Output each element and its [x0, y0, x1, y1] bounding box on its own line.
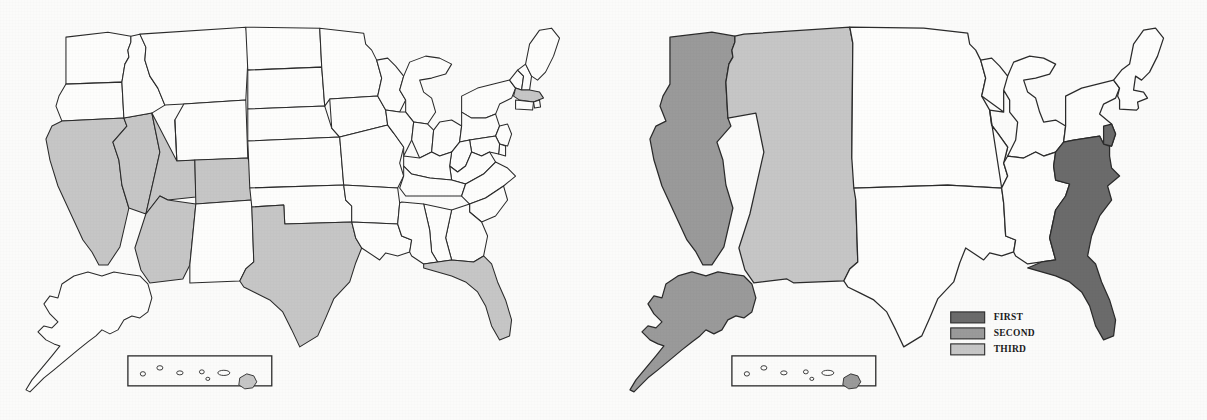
state-colorado[interactable]	[195, 158, 252, 204]
state-minnesota[interactable]	[320, 28, 382, 106]
legend-swatch-second	[950, 328, 984, 339]
state-florida[interactable]	[424, 256, 512, 340]
island-kauai	[744, 372, 749, 376]
state-maine[interactable]	[526, 28, 560, 80]
island-kahoolawe	[809, 377, 813, 380]
rank-legend: FIRST SECOND THIRD	[950, 312, 1034, 355]
region-pacific[interactable]	[649, 32, 734, 265]
state-new-york[interactable]	[462, 80, 516, 118]
hawaii-inset-right	[731, 356, 875, 389]
region-new-england[interactable]	[1113, 28, 1163, 110]
island-lanai	[199, 370, 204, 374]
island-hawaii	[239, 374, 257, 389]
state-north-dakota[interactable]	[246, 27, 322, 70]
legend-label-third: THIRD	[993, 344, 1026, 354]
island-molokai	[780, 371, 786, 375]
state-oregon[interactable]	[56, 82, 124, 121]
island-kahoolawe	[206, 377, 210, 380]
state-washington[interactable]	[66, 32, 131, 84]
region-mountain[interactable]	[725, 27, 857, 283]
region-alaska[interactable]	[629, 272, 755, 392]
right-map-panel: FIRST SECOND THIRD	[604, 0, 1207, 420]
state-arkansas[interactable]	[344, 185, 400, 224]
state-south-dakota[interactable]	[248, 67, 325, 109]
state-alaska[interactable]	[26, 272, 152, 392]
state-new-mexico[interactable]	[190, 200, 254, 283]
hawaii-inset-left	[128, 356, 272, 389]
state-kansas[interactable]	[248, 137, 344, 188]
legend-label-second: SECOND	[993, 328, 1034, 338]
island-molokai	[177, 371, 183, 375]
legend-entry-third[interactable]: THIRD	[950, 344, 1026, 355]
island-lanai	[803, 370, 808, 374]
left-map-panel	[0, 0, 604, 420]
region-level-map-svg: FIRST SECOND THIRD	[604, 0, 1207, 420]
legend-swatch-third	[950, 344, 984, 355]
island-maui	[821, 370, 833, 375]
state-rhode-island[interactable]	[534, 100, 541, 108]
island-oahu	[157, 366, 163, 370]
state-level-map-svg	[0, 0, 604, 420]
map-figure: FIRST SECOND THIRD	[0, 0, 1207, 420]
state-texas[interactable]	[240, 205, 362, 347]
region-west-north-central[interactable]	[849, 27, 1007, 188]
legend-label-first: FIRST	[993, 312, 1023, 322]
island-hawaii	[842, 374, 860, 389]
legend-entry-second[interactable]: SECOND	[950, 328, 1034, 339]
island-maui	[218, 370, 230, 375]
state-wyoming[interactable]	[175, 100, 248, 161]
legend-swatch-first	[950, 312, 984, 323]
island-oahu	[760, 366, 766, 370]
legend-entry-first[interactable]: FIRST	[950, 312, 1023, 323]
state-nebraska[interactable]	[248, 106, 340, 141]
region-west-south-central[interactable]	[843, 185, 1015, 347]
island-kauai	[140, 372, 145, 376]
state-connecticut[interactable]	[516, 100, 534, 110]
